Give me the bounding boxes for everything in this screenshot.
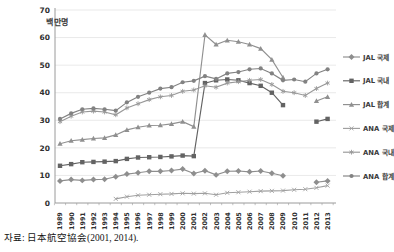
plot-svg: 0102030405060701989199019911992199319941…	[0, 0, 394, 252]
legend-label: ANA 합계	[363, 172, 394, 181]
legend-item-ana-total: ANA 합계	[343, 172, 394, 181]
svg-text:1993: 1993	[101, 212, 109, 230]
svg-text:1997: 1997	[146, 212, 154, 230]
svg-text:1995: 1995	[123, 212, 131, 230]
svg-text:2012: 2012	[313, 212, 321, 230]
svg-text:2008: 2008	[268, 212, 276, 230]
svg-text:1994: 1994	[112, 212, 120, 230]
svg-text:2010: 2010	[291, 212, 299, 230]
svg-text:2003: 2003	[213, 212, 221, 230]
legend-label: JAL 국내	[362, 76, 390, 85]
svg-text:2004: 2004	[224, 212, 232, 230]
y-axis-unit-label: 백만명	[46, 16, 69, 27]
legend-item-jal-total: JAL 합계	[343, 100, 390, 109]
svg-text:2006: 2006	[246, 212, 254, 230]
legend-item-jal-international: JAL 국제	[343, 53, 390, 62]
legend-label: ANA 국내	[363, 148, 394, 157]
svg-text:60: 60	[40, 33, 50, 42]
svg-text:2002: 2002	[201, 212, 209, 230]
svg-text:2011: 2011	[302, 212, 310, 230]
legend-item-jal-domestic: JAL 국내	[343, 76, 390, 85]
svg-text:1998: 1998	[157, 212, 165, 230]
legend-label: ANA 국제	[363, 124, 394, 133]
legend-item-ana-international: ANA 국제	[343, 124, 394, 133]
svg-text:20: 20	[40, 144, 50, 153]
source-note: 자료: 日本航空協会(2001, 2014).	[4, 230, 138, 244]
svg-text:2005: 2005	[235, 212, 243, 230]
svg-text:10: 10	[40, 171, 50, 180]
svg-text:2007: 2007	[257, 212, 265, 230]
svg-text:40: 40	[40, 88, 50, 97]
series-ana-total	[58, 66, 330, 121]
svg-text:2001: 2001	[190, 212, 198, 230]
x-axis-tick-labels: 1989199019911992199319941995199619971998…	[56, 212, 332, 230]
svg-text:2013: 2013	[324, 212, 332, 230]
svg-text:1992: 1992	[90, 212, 98, 230]
y-axis-tick-labels: 010203040506070	[40, 6, 50, 208]
svg-text:2000: 2000	[179, 212, 187, 230]
legend-item-ana-domestic: ANA 국내	[343, 148, 394, 157]
legend-label: JAL 국제	[362, 53, 390, 62]
series-ana-international	[114, 184, 330, 201]
svg-text:30: 30	[40, 116, 50, 125]
svg-text:0: 0	[45, 199, 50, 208]
svg-text:1991: 1991	[79, 212, 87, 230]
legend-label: JAL 합계	[362, 100, 390, 109]
svg-text:2009: 2009	[279, 212, 287, 230]
svg-text:50: 50	[40, 61, 50, 70]
line-chart: 0102030405060701989199019911992199319941…	[0, 0, 394, 252]
svg-text:1990: 1990	[68, 212, 76, 230]
svg-text:1999: 1999	[168, 212, 176, 230]
svg-text:1989: 1989	[56, 212, 64, 230]
series-ana-domestic	[58, 77, 330, 124]
legend: JAL 국제JAL 국내JAL 합계ANA 국제ANA 국내ANA 합계	[343, 53, 394, 181]
svg-text:1996: 1996	[134, 212, 142, 230]
svg-text:70: 70	[40, 6, 50, 15]
